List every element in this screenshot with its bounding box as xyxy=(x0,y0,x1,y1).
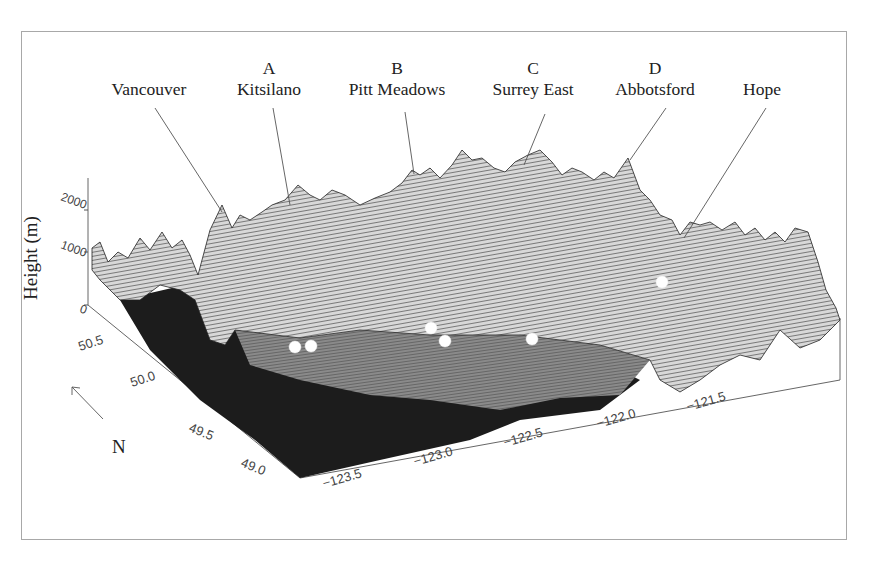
lat-tick-50.0: 50.0 xyxy=(128,368,157,390)
label-name: Surrey East xyxy=(492,79,573,100)
lat-tick-49.5: 49.5 xyxy=(187,420,216,443)
label-name: Kitsilano xyxy=(237,79,301,100)
label-letter: B xyxy=(349,58,446,79)
marker-hope xyxy=(656,276,668,288)
label-vancouver: Vancouver xyxy=(112,79,187,100)
label-surrey-east: C Surrey East xyxy=(492,58,573,100)
lat-tick-49.0: 49.0 xyxy=(239,455,268,478)
z-axis-ticks: 0 1000 2000 xyxy=(59,190,89,318)
label-name: Pitt Meadows xyxy=(349,79,446,100)
label-letter: D xyxy=(615,58,695,79)
label-name: Hope xyxy=(743,79,781,100)
marker-abbotsford xyxy=(526,333,538,345)
north-label: N xyxy=(112,436,126,458)
z-tick-0: 0 xyxy=(78,302,89,318)
label-letter: A xyxy=(237,58,301,79)
marker-pitt-meadows xyxy=(425,322,437,334)
label-kitsilano: A Kitsilano xyxy=(237,58,301,100)
lon-tick-122.0: −122.0 xyxy=(595,405,638,430)
label-hope: Hope xyxy=(743,79,781,100)
z-tick-1000: 1000 xyxy=(59,238,89,260)
lon-tick-121.5: −121.5 xyxy=(685,388,728,413)
lon-tick-122.5: −122.5 xyxy=(502,424,545,449)
z-tick-2000: 2000 xyxy=(59,190,89,212)
label-abbotsford: D Abbotsford xyxy=(615,58,695,100)
lat-tick-50.5: 50.5 xyxy=(76,332,105,354)
label-letter: C xyxy=(492,58,573,79)
marker-surrey-east xyxy=(439,335,451,347)
north-arrow-icon xyxy=(72,387,103,419)
label-name: Abbotsford xyxy=(615,79,695,100)
marker-kitsilano xyxy=(305,340,317,352)
marker-vancouver xyxy=(289,341,301,353)
label-pitt-meadows: B Pitt Meadows xyxy=(349,58,446,100)
label-name: Vancouver xyxy=(112,79,187,100)
z-axis-label: Height (m) xyxy=(20,216,42,300)
